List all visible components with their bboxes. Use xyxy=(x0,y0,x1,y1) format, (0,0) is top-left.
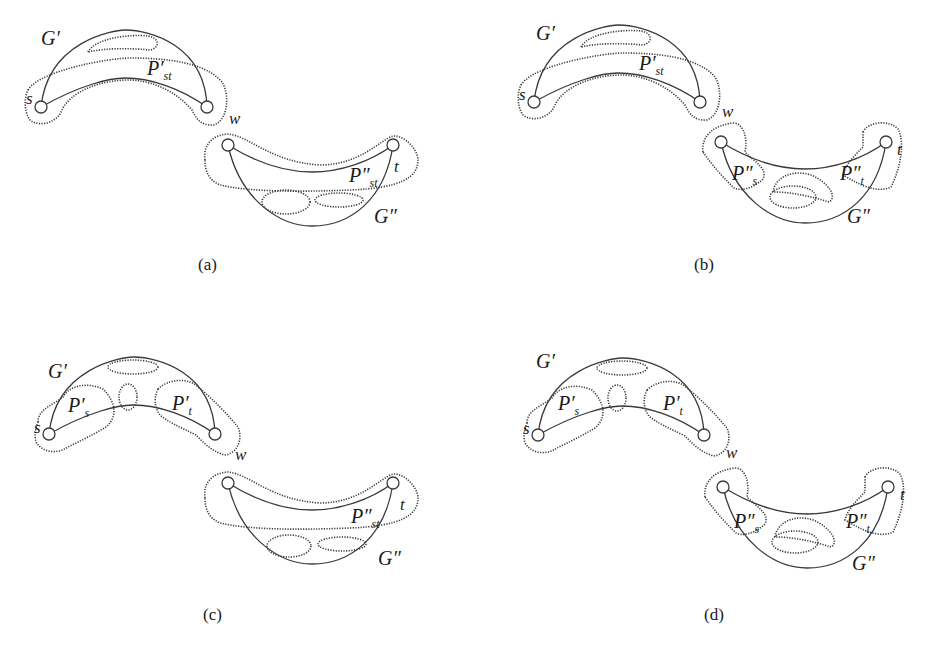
path-label-pst-prime: P′st xyxy=(146,57,172,83)
vertex-label-s: s xyxy=(523,419,530,438)
figure: G′ s w P′st P″st t G″ (a) G′ xyxy=(0,0,936,647)
path-label-ps-double: P″s xyxy=(733,510,760,536)
vertex-label-s: s xyxy=(519,85,526,104)
vertex-label-w: w xyxy=(235,445,247,464)
path-label-pst-double: P″st xyxy=(350,505,380,531)
graph-label-gprime: G′ xyxy=(41,27,60,49)
path-label-ps-prime: P′s xyxy=(557,392,580,418)
path-label-pt-double: P″t xyxy=(839,162,865,188)
path-label-ps-double: P″s xyxy=(731,162,758,188)
panel-caption: (a) xyxy=(198,255,217,274)
path-label-ps-prime: P′s xyxy=(67,394,90,420)
panel-d: G′ s w P′s P′t P″s P″t t G″ (d) xyxy=(523,350,906,624)
graph-label-gdouble: G″ xyxy=(852,552,875,574)
vertex-label-t: t xyxy=(394,157,400,176)
vertex-label-t: t xyxy=(900,485,906,504)
panel-b: G′ s w P′st P″s P″t t G″ (b) xyxy=(518,22,903,274)
vertex-label-w: w xyxy=(722,102,734,121)
panel-c: G′ s w P′s P′t P″st t G″ (c) xyxy=(34,357,418,624)
path-label-pst-double: P″st xyxy=(348,164,378,190)
graph-label-gdouble: G″ xyxy=(847,205,870,227)
path-label-pt-double: P″t xyxy=(845,510,871,536)
path-label-pst-prime: P′st xyxy=(638,52,664,78)
vertex-label-t: t xyxy=(400,495,406,514)
panel-a: G′ s w P′st P″st t G″ (a) xyxy=(25,27,418,274)
graph-label-gprime: G′ xyxy=(536,350,555,372)
panel-caption: (c) xyxy=(203,605,222,624)
graph-label-gdouble: G″ xyxy=(378,547,401,569)
graph-label-gprime: G′ xyxy=(48,360,67,382)
panel-caption: (b) xyxy=(694,255,714,274)
graph-label-gprime: G′ xyxy=(536,22,555,44)
path-label-pt-prime: P′t xyxy=(171,392,193,418)
panel-caption: (d) xyxy=(704,605,724,624)
vertex-label-w: w xyxy=(229,109,241,128)
graph-label-gdouble: G″ xyxy=(374,205,397,227)
vertex-label-s: s xyxy=(26,89,33,108)
vertex-label-w: w xyxy=(726,443,738,462)
vertex-label-s: s xyxy=(34,418,41,437)
